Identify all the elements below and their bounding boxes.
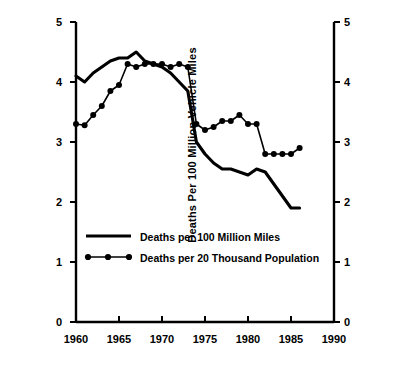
data-point <box>262 151 268 157</box>
data-point <box>271 151 277 157</box>
series-deaths-per-100-million-miles <box>76 52 300 208</box>
data-point <box>168 64 174 70</box>
legend-swatch-marker-1 <box>85 254 91 260</box>
data-point <box>125 61 131 67</box>
legend-swatches <box>85 236 132 260</box>
legend-swatch-marker-3 <box>126 254 132 260</box>
data-point <box>116 82 122 88</box>
axes-lines <box>76 22 334 322</box>
data-point <box>193 121 199 127</box>
data-point <box>90 112 96 118</box>
data-point <box>236 112 242 118</box>
data-point <box>150 61 156 67</box>
data-point <box>279 151 285 157</box>
data-point <box>142 61 148 67</box>
data-point <box>185 64 191 70</box>
data-point <box>228 118 234 124</box>
data-point <box>107 88 113 94</box>
data-point <box>211 124 217 130</box>
series-deaths-per-20-thousand-population-markers <box>73 61 303 157</box>
chart-container: Deaths Per 100 Million Vehicle Miles Dea… <box>0 0 404 367</box>
data-point <box>245 121 251 127</box>
data-point <box>297 145 303 151</box>
data-point <box>219 118 225 124</box>
data-point <box>159 61 165 67</box>
data-point <box>254 121 260 127</box>
legend-swatch-marker-2 <box>105 254 111 260</box>
series-deaths-per-20-thousand-population-line <box>76 64 300 154</box>
chart-plot-svg <box>0 0 404 367</box>
data-point <box>82 122 88 128</box>
data-point <box>99 103 105 109</box>
data-point <box>176 61 182 67</box>
data-point <box>288 151 294 157</box>
data-point <box>133 64 139 70</box>
data-point <box>73 121 79 127</box>
data-point <box>202 127 208 133</box>
